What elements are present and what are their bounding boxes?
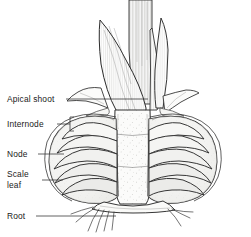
botanical-diagram-bulb: Apical shoot Internode Node Scale leaf R… xyxy=(0,0,251,237)
label-root-text: Root xyxy=(7,211,26,221)
label-node-text: Node xyxy=(7,149,28,159)
label-scale-leaf-text-line1: Scale xyxy=(7,169,29,179)
label-apical-shoot-text: Apical shoot xyxy=(7,94,55,104)
label-internode-text: Internode xyxy=(7,119,44,129)
central-stem-group xyxy=(114,110,151,204)
label-scale-leaf-text-line2: leaf xyxy=(7,180,22,190)
central-stem xyxy=(114,110,151,204)
diagram-canvas: Apical shoot Internode Node Scale leaf R… xyxy=(0,0,251,237)
